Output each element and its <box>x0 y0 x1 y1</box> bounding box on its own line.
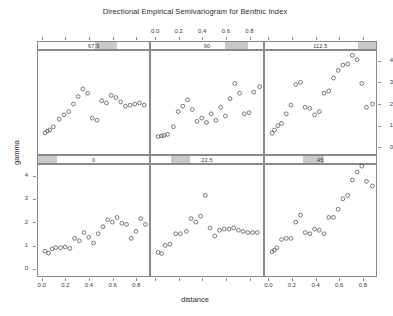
axis-tick <box>179 278 180 281</box>
axis-tick <box>155 278 156 281</box>
panel-strip-45: 45 <box>264 155 377 164</box>
y-tick-label: 0 <box>18 265 28 271</box>
strip-label: 22.5 <box>151 156 262 163</box>
data-points <box>265 165 376 276</box>
x-axis-title: distance <box>0 295 390 304</box>
plot-panel-67.5 <box>37 50 150 155</box>
axis-tick <box>33 222 36 223</box>
x-tick-label: 0.2 <box>168 28 190 34</box>
axis-tick <box>378 104 381 105</box>
axis-tick <box>363 37 364 40</box>
axis-tick <box>250 278 251 281</box>
axis-tick <box>268 278 269 281</box>
plot-panel-112.5 <box>264 50 377 155</box>
panel-strip-112.5: 112.5 <box>264 41 377 50</box>
axis-tick <box>33 246 36 247</box>
axis-tick <box>33 269 36 270</box>
panel-strip-22.5: 22.5 <box>150 155 263 164</box>
data-points <box>38 165 149 276</box>
strip-label: 45 <box>265 156 376 163</box>
axis-tick <box>136 278 137 281</box>
x-tick-label: 0.4 <box>78 282 100 288</box>
x-tick-label: 0.6 <box>102 282 124 288</box>
axis-tick <box>378 61 381 62</box>
x-tick-label: 0.6 <box>328 282 350 288</box>
plot-panel-45 <box>264 164 377 277</box>
axis-tick <box>226 37 227 40</box>
panel-strip-90: 90 <box>150 41 263 50</box>
x-tick-label: 0.0 <box>31 282 53 288</box>
axis-tick <box>250 37 251 40</box>
data-points <box>265 51 376 154</box>
axis-tick <box>316 278 317 281</box>
x-tick-label: 0.8 <box>125 282 147 288</box>
axis-tick <box>113 278 114 281</box>
axis-tick <box>378 126 381 127</box>
strip-label: 67.5 <box>38 42 149 49</box>
y-tick-label: 3 <box>18 195 28 201</box>
axis-tick <box>363 278 364 281</box>
y-tick-label: 3 <box>383 79 393 85</box>
strip-label: 112.5 <box>265 42 376 49</box>
axis-tick <box>155 37 156 40</box>
y-tick-label: 1 <box>383 122 393 128</box>
axis-tick <box>292 278 293 281</box>
axis-tick <box>89 278 90 281</box>
axis-tick <box>339 37 340 40</box>
axis-tick <box>136 37 137 40</box>
x-tick-label: 0.4 <box>191 28 213 34</box>
y-tick-label: 4 <box>18 172 28 178</box>
axis-tick <box>316 37 317 40</box>
plot-panel-22.5 <box>150 164 263 277</box>
x-tick-label: 0.8 <box>239 28 261 34</box>
y-tick-label: 2 <box>18 219 28 225</box>
axis-tick <box>65 278 66 281</box>
x-tick-label: 0.0 <box>144 28 166 34</box>
axis-tick <box>179 37 180 40</box>
panel-strip-67.5: 67.5 <box>37 41 150 50</box>
axis-tick <box>42 278 43 281</box>
x-tick-label: 0.2 <box>54 282 76 288</box>
axis-tick <box>89 37 90 40</box>
data-points <box>151 51 262 154</box>
axis-tick <box>113 37 114 40</box>
x-tick-label: 0.6 <box>215 28 237 34</box>
x-tick-label: 0.0 <box>257 282 279 288</box>
axis-tick <box>202 37 203 40</box>
plot-panel-90 <box>150 50 263 155</box>
axis-tick <box>65 37 66 40</box>
axis-tick <box>378 82 381 83</box>
y-tick-label: 1 <box>18 242 28 248</box>
y-tick-label: 2 <box>383 101 393 107</box>
axis-tick <box>33 199 36 200</box>
axis-tick <box>202 278 203 281</box>
x-tick-label: 0.4 <box>305 282 327 288</box>
x-tick-label: 0.8 <box>352 282 374 288</box>
axis-tick <box>42 37 43 40</box>
y-tick-label: 0 <box>383 144 393 150</box>
panel-strip-0: 0 <box>37 155 150 164</box>
axis-tick <box>33 176 36 177</box>
data-points <box>151 165 262 276</box>
data-points <box>38 51 149 154</box>
page-title: Directional Empirical Semivariogram for … <box>0 7 390 16</box>
axis-tick <box>292 37 293 40</box>
x-tick-label: 0.2 <box>281 282 303 288</box>
y-tick-label: 4 <box>383 57 393 63</box>
strip-label: 0 <box>38 156 149 163</box>
axis-tick <box>378 147 381 148</box>
strip-label: 90 <box>151 42 262 49</box>
axis-tick <box>226 278 227 281</box>
axis-tick <box>339 278 340 281</box>
plot-panel-0 <box>37 164 150 277</box>
axis-tick <box>268 37 269 40</box>
